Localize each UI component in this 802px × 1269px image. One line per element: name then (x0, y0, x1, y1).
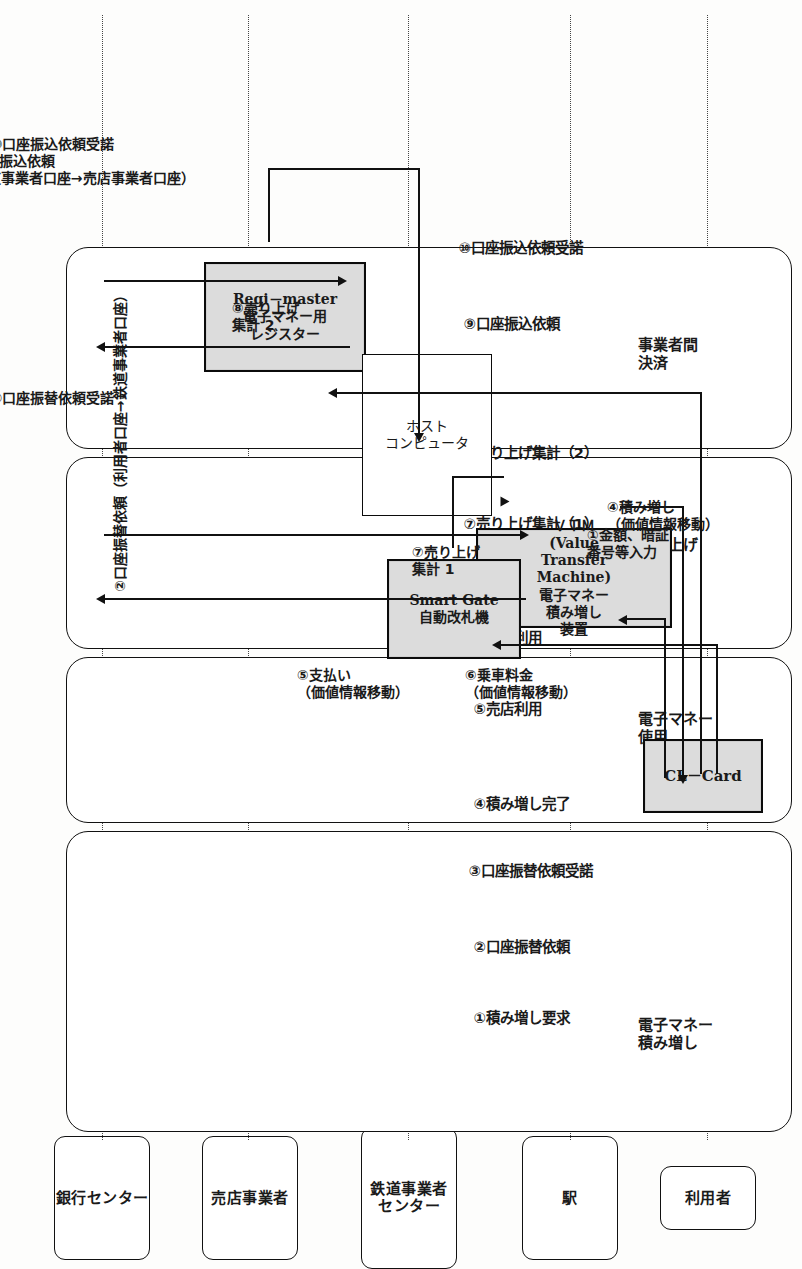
actor-header-bank: 銀行センター (54, 1136, 150, 1260)
phase-step-settlement-2: ⑩口座振込依頼受諾 (459, 240, 679, 257)
connector-8-arrowhead (414, 433, 424, 442)
flow-label-7: ⑦売り上げ 集計 1 (412, 544, 542, 578)
connector-6-arrowhead (492, 640, 501, 650)
phase-step-settlement-1: ⑨口座振込依頼 (464, 316, 674, 333)
connector-5-line-v (336, 392, 700, 394)
flow-label-6: ⑥乗車料金 （価値情報移動） (465, 667, 665, 701)
connector-4-arrowhead (678, 775, 688, 784)
actor-header-shop: 売店事業者 (202, 1136, 298, 1260)
flow-label-3: ③口座振替依頼受諾 (0, 390, 250, 407)
phase-step-charge-2: ②口座振替依頼 (474, 939, 664, 956)
flow-label-8: ⑧売り上げ 集計 2 (232, 300, 362, 334)
connector-9-line (104, 346, 350, 348)
flow-label-2: ②口座振替依頼（利用者口座→鉄道事業者口座） (112, 262, 129, 592)
phase-step-charge-3: ③口座振替依頼受諾 (469, 863, 669, 880)
phase-step-charge-1: ①積み増し要求 (474, 1010, 664, 1027)
flow-label-10: ⑩口座振込依頼受諾 (0, 136, 250, 153)
connector-7-arrowhead (501, 497, 510, 507)
phase-step-use-1: ⑤売店利用 (474, 701, 664, 718)
phase-step-charge-4: ④積み増し完了 (474, 796, 664, 813)
connector-2-line (104, 598, 526, 600)
phase-capsule-charge (66, 831, 792, 1132)
connector-3-line (104, 534, 526, 536)
connector-7-line-v (452, 476, 504, 478)
node-cl-card[interactable]: CL－Card (643, 739, 763, 813)
connector-3-arrowhead (520, 530, 529, 540)
actor-header-user: 利用者 (660, 1166, 756, 1230)
connector-1-arrowhead (618, 615, 627, 625)
actor-header-station: 駅 (522, 1136, 618, 1260)
node-host-computer[interactable]: ホスト コンピュータ (362, 354, 492, 516)
connector-10-line (104, 280, 344, 282)
flow-label-9: ⑨口座振込依頼 （鉄道事業者口座→売店事業者口座） (0, 153, 299, 187)
connector-6-line-v (500, 644, 716, 646)
connector-9-arrowhead (96, 342, 105, 352)
connector-6-line-h (716, 644, 718, 774)
connector-1-line (626, 618, 666, 620)
connector-10-arrowhead (338, 276, 347, 286)
actor-header-railcenter: 鉄道事業者 センター (361, 1127, 457, 1269)
phase-label-settlement: 事業者間 決済 (638, 336, 798, 372)
connector-8-line-h2 (418, 168, 420, 434)
connector-2-arrowhead (96, 594, 105, 604)
connector-4-line-h (682, 506, 684, 776)
connector-7-line-h (452, 476, 454, 548)
phase-step-sales-2: ⑧売り上げ集計（2） (464, 445, 674, 462)
connector-5-arrowhead (328, 388, 337, 398)
connector-5-line-h (700, 392, 702, 774)
flow-label-4: ④積み増し （価値情報移動） (607, 499, 802, 533)
